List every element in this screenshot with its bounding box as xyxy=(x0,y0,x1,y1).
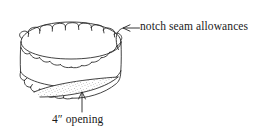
left-wall xyxy=(20,42,21,72)
notch-seam-allowances-label: notch seam allowances xyxy=(140,21,248,33)
opening-leader-arrow xyxy=(79,92,86,112)
mid-band-scallops xyxy=(21,42,121,68)
figure-page: notch seam allowances 4″ opening xyxy=(0,0,271,140)
top-rim-notches xyxy=(20,22,122,42)
four-inch-opening-label: 4″ opening xyxy=(52,114,103,126)
